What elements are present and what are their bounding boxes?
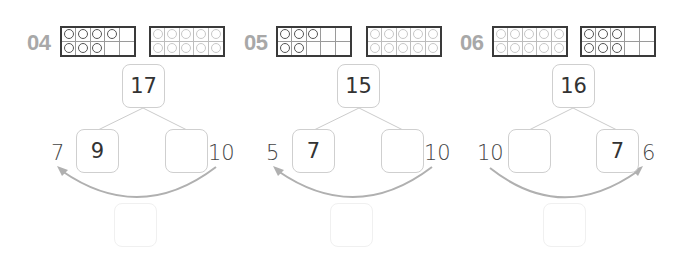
- left-part-box[interactable]: 7: [292, 129, 335, 173]
- answer-box[interactable]: [114, 203, 157, 247]
- problem-04: 04 17 9 7 10: [0, 0, 230, 262]
- whole-box: 15: [337, 64, 380, 108]
- right-label: 6: [642, 140, 655, 166]
- answer-box[interactable]: [543, 203, 586, 247]
- problem-06: 06 16 7 10 6: [432, 0, 662, 262]
- left-part-box[interactable]: [508, 129, 551, 173]
- answer-box[interactable]: [330, 203, 373, 247]
- left-label: 7: [51, 140, 64, 166]
- right-part-box[interactable]: [381, 129, 424, 173]
- right-part-box[interactable]: 7: [596, 129, 639, 173]
- whole-box: 17: [122, 64, 165, 108]
- right-part-box[interactable]: [165, 129, 208, 173]
- left-part-box[interactable]: 9: [76, 129, 119, 173]
- problem-05: 05 15 7 5 10: [216, 0, 446, 262]
- whole-box: 16: [552, 64, 595, 108]
- left-label: 5: [266, 140, 279, 166]
- left-label: 10: [477, 140, 504, 166]
